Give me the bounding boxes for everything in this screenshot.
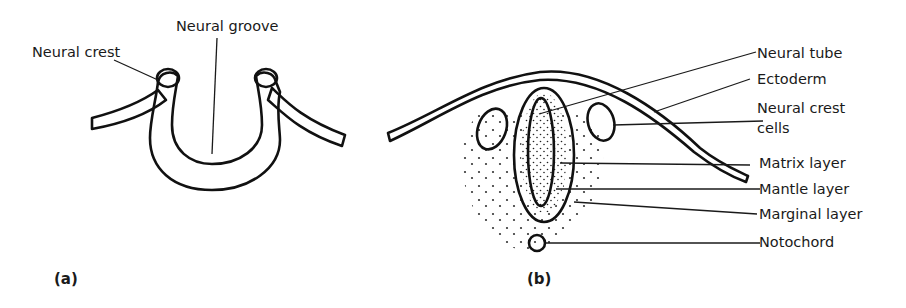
- neural-tube-development-figure: Neural crest Neural groove (a) Neural tu…: [0, 0, 906, 308]
- leader-neural-groove: [212, 38, 217, 154]
- leader-ectoderm: [654, 79, 750, 112]
- panel-a: Neural crest Neural groove (a): [32, 18, 345, 288]
- leader-neural-crest: [114, 60, 158, 80]
- label-ectoderm: Ectoderm: [757, 71, 827, 87]
- caption-a: (a): [54, 270, 78, 288]
- caption-b: (b): [527, 270, 551, 288]
- label-neural-groove: Neural groove: [176, 18, 279, 34]
- label-mantle-layer: Mantle layer: [759, 181, 849, 197]
- label-matrix-layer: Matrix layer: [759, 155, 846, 171]
- label-neural-crest: Neural crest: [32, 44, 121, 60]
- label-marginal-layer: Marginal layer: [759, 206, 862, 222]
- label-neural-tube: Neural tube: [757, 45, 843, 61]
- leader-neural-crest-cells: [613, 121, 763, 125]
- label-neural-crest-cells-2: cells: [757, 120, 790, 136]
- label-neural-crest-cells-1: Neural crest: [757, 100, 846, 116]
- label-notochord: Notochord: [759, 234, 834, 250]
- panel-b: Neural tube Ectoderm Neural crest cells …: [388, 45, 862, 288]
- leader-marginal-layer: [574, 202, 757, 214]
